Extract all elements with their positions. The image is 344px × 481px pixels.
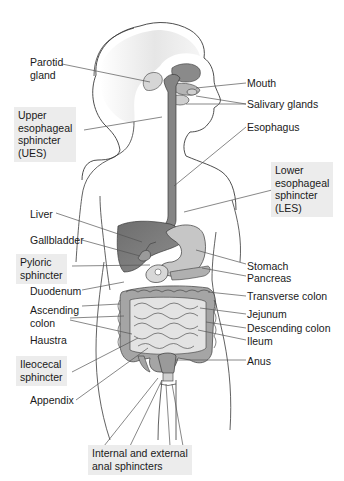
- label-esophagus: Esophagus: [247, 121, 300, 134]
- leader-lines: [56, 64, 276, 446]
- label-anal-sphincters: Internal and external anal sphincters: [88, 445, 192, 475]
- label-anus: Anus: [247, 355, 271, 368]
- label-salivary-glands: Salivary glands: [247, 98, 318, 111]
- label-stomach: Stomach: [247, 260, 288, 273]
- label-pancreas: Pancreas: [247, 272, 291, 285]
- label-mouth: Mouth: [247, 77, 276, 90]
- label-parotid-gland: Parotid gland: [30, 56, 63, 81]
- label-ileum: Ileum: [247, 335, 273, 348]
- label-gallbladder: Gallbladder: [30, 234, 84, 247]
- label-ascending-colon: Ascending colon: [30, 304, 79, 329]
- label-lower-esophageal-sphincter: Lower esophageal sphincter (LES): [271, 162, 333, 217]
- label-haustra: Haustra: [30, 334, 67, 347]
- label-jejunum: Jejunum: [247, 308, 287, 321]
- label-duodenum: Duodenum: [30, 285, 81, 298]
- label-pyloric-sphincter: Pyloric sphincter: [16, 254, 67, 284]
- small-intestine: [130, 297, 206, 354]
- label-transverse-colon: Transverse colon: [247, 290, 327, 303]
- label-upper-esophageal-sphincter: Upper esophageal sphincter (UES): [14, 107, 76, 162]
- label-descending-colon: Descending colon: [247, 322, 330, 335]
- label-liver: Liver: [30, 208, 53, 221]
- label-appendix: Appendix: [30, 394, 74, 407]
- label-ileocecal-sphincter: Ileocecal sphincter: [16, 356, 67, 386]
- digestive-system-diagram: Parotid gland Upper esophageal sphincter…: [0, 0, 344, 481]
